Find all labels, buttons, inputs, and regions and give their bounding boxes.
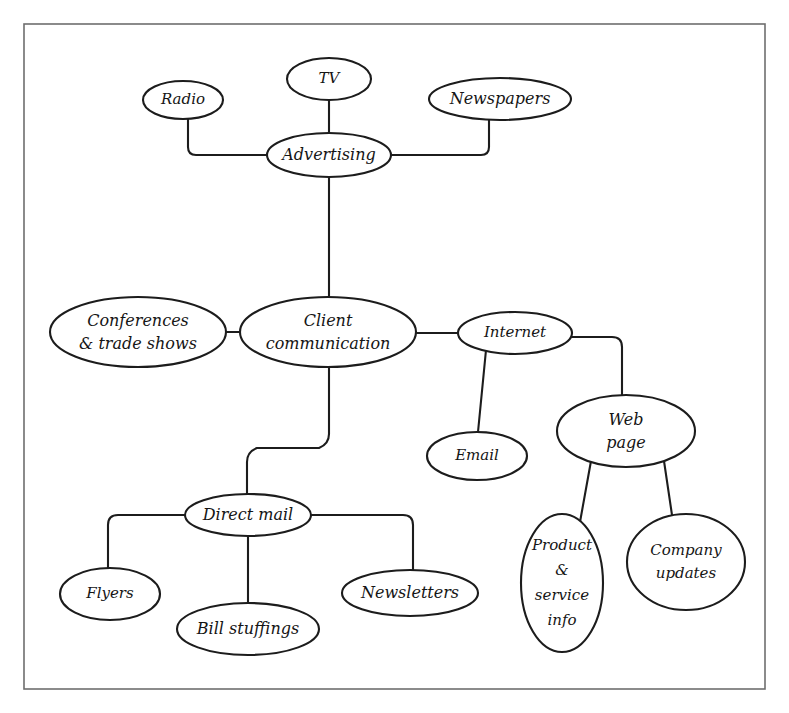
node-label-line: TV (319, 69, 342, 87)
node-label-tv: TV (319, 69, 342, 87)
node-label-line: & (555, 561, 568, 579)
node-shape-conferences (50, 297, 226, 367)
node-label-flyers: Flyers (85, 584, 134, 602)
node-label-directmail: Direct mail (202, 505, 293, 524)
node-label-email: Email (454, 446, 499, 464)
node-shape-company (627, 514, 745, 610)
node-radio[interactable]: Radio (143, 81, 223, 119)
node-conferences[interactable]: Conferences& trade shows (50, 297, 226, 367)
edge-directmail-flyers (108, 515, 186, 568)
node-label-line: Radio (160, 90, 205, 108)
node-label-line: Email (454, 446, 499, 464)
concept-map-svg: TVRadioNewspapersAdvertisingConferences&… (0, 0, 789, 713)
node-label-line: Bill stuffings (196, 619, 299, 638)
node-internet[interactable]: Internet (458, 312, 572, 354)
node-label-line: & trade shows (79, 333, 197, 352)
edge-directmail-newsletters (311, 515, 413, 570)
node-label-radio: Radio (160, 90, 205, 108)
edge-webpage-company (664, 461, 672, 515)
edge-advertising-radio (188, 119, 267, 155)
node-label-line: Newspapers (449, 89, 551, 108)
node-company[interactable]: Companyupdates (627, 514, 745, 610)
node-shape-client (240, 297, 416, 367)
node-label-line: Conferences (87, 310, 189, 329)
node-webpage[interactable]: Webpage (557, 395, 695, 467)
edge-advertising-newspapers (391, 120, 489, 155)
node-label-newsletters: Newsletters (360, 583, 459, 602)
node-label-line: Advertising (280, 145, 375, 164)
node-email[interactable]: Email (427, 432, 527, 480)
node-label-line: Product (531, 536, 593, 554)
node-label-internet: Internet (483, 323, 547, 341)
edge-internet-email (478, 350, 486, 432)
edge-internet-webpage (572, 337, 622, 396)
node-label-line: Flyers (85, 584, 134, 602)
nodes-layer: TVRadioNewspapersAdvertisingConferences&… (50, 58, 745, 655)
diagram-canvas: TVRadioNewspapersAdvertisingConferences&… (0, 0, 789, 713)
node-label-line: Company (650, 541, 722, 559)
node-newspapers[interactable]: Newspapers (429, 78, 571, 120)
node-label-line: Web (609, 409, 644, 428)
node-billstuff[interactable]: Bill stuffings (177, 603, 319, 655)
node-label-line: page (606, 432, 646, 451)
node-label-line: info (547, 611, 576, 629)
node-label-line: updates (656, 564, 717, 582)
node-client[interactable]: Clientcommunication (240, 297, 416, 367)
node-label-newspapers: Newspapers (449, 89, 551, 108)
node-label-advertising: Advertising (280, 145, 375, 164)
node-label-line: Direct mail (202, 505, 293, 524)
edge-webpage-product (580, 461, 591, 522)
node-advertising[interactable]: Advertising (267, 133, 391, 177)
node-label-line: communication (266, 333, 391, 352)
node-directmail[interactable]: Direct mail (185, 494, 311, 536)
node-newsletters[interactable]: Newsletters (342, 570, 478, 616)
node-label-line: Internet (483, 323, 547, 341)
node-shape-webpage (557, 395, 695, 467)
node-product[interactable]: Product&serviceinfo (521, 514, 603, 652)
edge-client-directmail (247, 367, 329, 494)
node-flyers[interactable]: Flyers (60, 568, 160, 620)
node-label-line: Client (304, 310, 353, 329)
node-label-line: Newsletters (360, 583, 459, 602)
node-label-line: service (535, 586, 589, 604)
node-tv[interactable]: TV (287, 58, 371, 100)
node-label-billstuff: Bill stuffings (196, 619, 299, 638)
